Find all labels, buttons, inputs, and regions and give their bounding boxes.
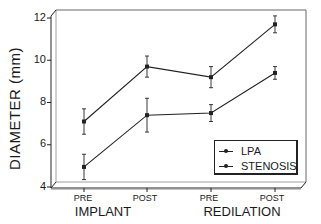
x-tick-label: POST: [125, 193, 165, 203]
line-marker-icon: [219, 151, 233, 152]
data-point-marker: [82, 165, 86, 169]
data-point-marker: [209, 75, 213, 79]
data-point-marker: [273, 22, 277, 26]
line-chart: DIAMETER (mm) 12 10 8 6 4 PRE POST PRE P…: [0, 0, 321, 224]
x-tick-label: POST: [252, 193, 292, 203]
line-marker-icon: [219, 166, 233, 167]
frame-floor: [51, 182, 306, 188]
y-tick-label: 10: [26, 53, 46, 65]
legend-label: LPA: [241, 145, 261, 157]
legend-item-stenosis: STENOSIS: [219, 159, 297, 173]
legend: LPA STENOSIS: [214, 140, 298, 175]
x-tick-label: PRE: [189, 193, 229, 203]
data-point-marker: [209, 111, 213, 115]
series-line-lpa: [84, 24, 275, 121]
y-tick-label: 8: [26, 95, 46, 107]
x-tick-label: PRE: [63, 193, 103, 203]
y-tick-label: 12: [26, 11, 46, 23]
data-point-marker: [145, 65, 149, 69]
y-tick-label: 4: [26, 180, 46, 192]
x-group-label-implant: IMPLANT: [43, 204, 163, 219]
data-point-marker: [145, 113, 149, 117]
data-point-marker: [273, 71, 277, 75]
frame-left-wall: [51, 10, 56, 188]
data-point-marker: [82, 120, 86, 124]
y-tick-label: 6: [26, 137, 46, 149]
legend-label: STENOSIS: [241, 160, 297, 172]
plot-area: [0, 0, 321, 224]
legend-item-lpa: LPA: [219, 144, 261, 158]
x-group-label-redilation: REDILATION: [182, 204, 302, 219]
